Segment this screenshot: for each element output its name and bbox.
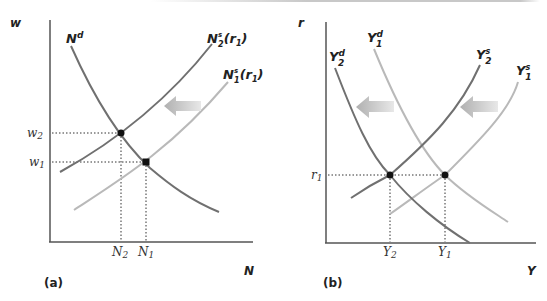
tick-n2: N2 bbox=[111, 245, 129, 260]
x-axis-label-n: N bbox=[244, 264, 254, 278]
tick-w1: w1 bbox=[29, 155, 45, 170]
tick-n1: N1 bbox=[137, 245, 154, 260]
tick-w2: w2 bbox=[27, 126, 43, 141]
curve-n1-supply bbox=[74, 82, 228, 210]
diagram-canvas: w N Nd Ns2(r1) Ns1(r1) w2 bbox=[0, 0, 547, 301]
label-nd: Nd bbox=[66, 30, 84, 46]
curve-y2-demand bbox=[335, 68, 470, 243]
label-y1d: Yd1 bbox=[367, 29, 383, 49]
panel-b: r Y Yd2 Yd1 Ys2 Ys1 bbox=[298, 16, 537, 290]
shift-arrow-left-a bbox=[164, 96, 201, 116]
tick-r1: r1 bbox=[311, 168, 322, 183]
panel-label-b: (b) bbox=[323, 276, 343, 290]
shift-arrow-left-b-demand bbox=[356, 96, 394, 118]
label-n2s: Ns2(r1) bbox=[207, 31, 248, 49]
tick-y2: Y2 bbox=[383, 245, 397, 260]
panel-label-a: (a) bbox=[44, 276, 63, 290]
label-n1s: Ns1(r1) bbox=[223, 67, 264, 85]
equilibrium-point-2 bbox=[118, 130, 125, 137]
curve-y2-supply bbox=[351, 65, 480, 198]
x-axis-label-y: Y bbox=[527, 264, 537, 278]
panel-a: w N Nd Ns2(r1) Ns1(r1) w2 bbox=[10, 16, 264, 290]
shift-arrow-left-b-supply bbox=[460, 96, 498, 118]
y-axis-label-r: r bbox=[298, 16, 305, 30]
equilibrium-point-1 bbox=[442, 172, 449, 179]
label-y2d: Yd2 bbox=[329, 48, 345, 68]
equilibrium-point-1 bbox=[143, 159, 150, 166]
y-axis-label-w: w bbox=[10, 16, 22, 30]
curve-y1-supply bbox=[390, 82, 518, 214]
label-y1s: Ys1 bbox=[516, 63, 531, 82]
equilibrium-point-2 bbox=[387, 172, 394, 179]
curve-n-demand bbox=[71, 46, 219, 212]
curve-y1-demand bbox=[374, 49, 508, 222]
label-y2s: Ys2 bbox=[476, 47, 491, 66]
tick-y1: Y1 bbox=[438, 245, 452, 260]
